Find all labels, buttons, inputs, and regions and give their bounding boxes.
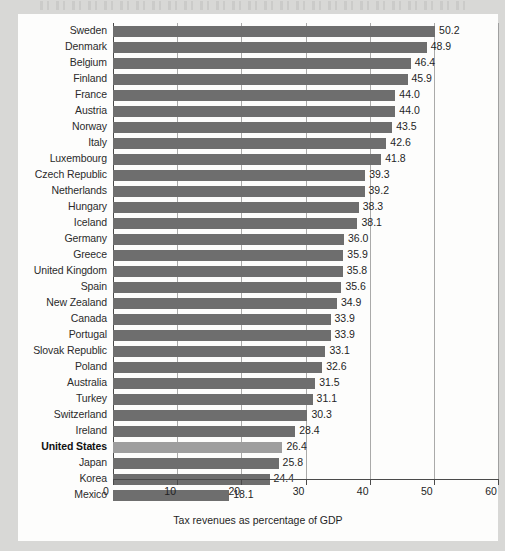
x-tick-label: 30: [293, 485, 305, 497]
bar-track: 33.9: [113, 327, 498, 343]
bar: [113, 122, 392, 133]
category-label: Denmark: [18, 39, 107, 55]
bar-value-label: 33.1: [325, 343, 349, 359]
category-label: New Zealand: [18, 295, 107, 311]
category-label: United Kingdom: [18, 263, 107, 279]
x-axis: 0102030405060: [113, 479, 498, 505]
bar-track: 32.6: [113, 359, 498, 375]
category-label: Iceland: [18, 215, 107, 231]
x-tick-label: 20: [228, 485, 240, 497]
bar-row: Ireland28.4: [18, 423, 498, 439]
bar-track: 31.5: [113, 375, 498, 391]
bar-value-label: 48.9: [427, 39, 451, 55]
bar: [113, 138, 386, 149]
bar-row: Greece35.9: [18, 247, 498, 263]
bar-row: Germany36.0: [18, 231, 498, 247]
x-axis-title: Tax revenues as percentage of GDP: [18, 514, 498, 526]
category-label: Belgium: [18, 55, 107, 71]
bar: [113, 282, 341, 293]
category-label: Norway: [18, 119, 107, 135]
bar-value-label: 38.1: [357, 215, 381, 231]
bar-value-label: 30.3: [307, 407, 331, 423]
category-label: Turkey: [18, 391, 107, 407]
bar-row: Italy42.6: [18, 135, 498, 151]
bar-row: Hungary38.3: [18, 199, 498, 215]
scan-artifact: [40, 1, 470, 10]
bar-row: Austria44.0: [18, 103, 498, 119]
bar-value-label: 42.6: [386, 135, 410, 151]
bar-track: 38.3: [113, 199, 498, 215]
bar-row: France44.0: [18, 87, 498, 103]
category-label: Italy: [18, 135, 107, 151]
category-label: Switzerland: [18, 407, 107, 423]
bar: [113, 410, 307, 421]
bar-row: Japan25.8: [18, 455, 498, 471]
chart-panel: Sweden50.2Denmark48.9Belgium46.4Finland4…: [18, 14, 498, 541]
page-background: Sweden50.2Denmark48.9Belgium46.4Finland4…: [0, 0, 505, 551]
bar-row: Australia31.5: [18, 375, 498, 391]
x-tick-10: [177, 479, 178, 485]
bar: [113, 234, 344, 245]
x-tick-20: [241, 479, 242, 485]
bar-track: 28.4: [113, 423, 498, 439]
bar: [113, 458, 279, 469]
bar-track: 31.1: [113, 391, 498, 407]
bar-value-label: 44.0: [395, 87, 419, 103]
bar-value-label: 32.6: [322, 359, 346, 375]
category-label: Sweden: [18, 23, 107, 39]
x-tick-50: [434, 479, 435, 485]
bar-track: 34.9: [113, 295, 498, 311]
bar: [113, 362, 322, 373]
bar: [113, 378, 315, 389]
category-label: Finland: [18, 71, 107, 87]
bar-rows: Sweden50.2Denmark48.9Belgium46.4Finland4…: [18, 23, 498, 503]
bar-value-label: 31.1: [313, 391, 337, 407]
bar: [113, 26, 435, 37]
bar-row: United States26.4: [18, 439, 498, 455]
bar: [113, 74, 408, 85]
bar-value-label: 35.6: [341, 279, 365, 295]
bar-row: United Kingdom35.8: [18, 263, 498, 279]
bar: [113, 250, 343, 261]
category-label: United States: [18, 439, 107, 455]
bar-track: 44.0: [113, 103, 498, 119]
bar-track: 46.4: [113, 55, 498, 71]
bar-track: 43.5: [113, 119, 498, 135]
bar-value-label: 46.4: [411, 55, 435, 71]
category-label: Ireland: [18, 423, 107, 439]
bar-track: 33.1: [113, 343, 498, 359]
bar-track: 36.0: [113, 231, 498, 247]
bar: [113, 426, 295, 437]
bar-value-label: 25.8: [279, 455, 303, 471]
bar: [113, 154, 381, 165]
bar-track: 39.3: [113, 167, 498, 183]
x-tick-30: [306, 479, 307, 485]
bar-value-label: 35.8: [343, 263, 367, 279]
x-tick-label: 10: [164, 485, 176, 497]
bar-value-label: 43.5: [392, 119, 416, 135]
bar-row: Poland32.6: [18, 359, 498, 375]
bar-track: 30.3: [113, 407, 498, 423]
bar-value-label: 28.4: [295, 423, 319, 439]
bar: [113, 394, 313, 405]
x-tick-label: 0: [103, 485, 109, 497]
category-label: Greece: [18, 247, 107, 263]
bar-track: 44.0: [113, 87, 498, 103]
bar-track: 25.8: [113, 455, 498, 471]
bar-track: 48.9: [113, 39, 498, 55]
x-tick-60: [498, 479, 499, 485]
bar: [113, 42, 427, 53]
category-label: Australia: [18, 375, 107, 391]
category-label: Poland: [18, 359, 107, 375]
bar-row: Iceland38.1: [18, 215, 498, 231]
bar-track: 35.6: [113, 279, 498, 295]
bar-row: Belgium46.4: [18, 55, 498, 71]
bar-value-label: 44.0: [395, 103, 419, 119]
bar: [113, 330, 331, 341]
bar-track: 39.2: [113, 183, 498, 199]
category-label: Austria: [18, 103, 107, 119]
bar-value-label: 39.3: [365, 167, 389, 183]
bar-row: Norway43.5: [18, 119, 498, 135]
bar: [113, 106, 395, 117]
bar-value-label: 39.2: [365, 183, 389, 199]
